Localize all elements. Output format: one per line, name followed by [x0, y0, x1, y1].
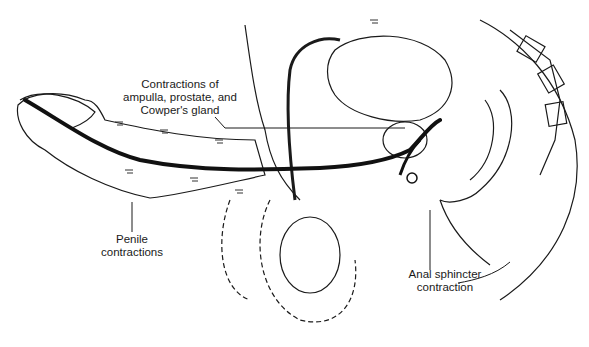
label-line: Cowper's gland [120, 104, 240, 117]
scrotum-outline [260, 200, 356, 322]
testis [280, 217, 340, 293]
label-line: ampulla, prostate, and [120, 91, 240, 104]
label-line: Contractions of [120, 78, 240, 91]
label-ampulla-prostate-cowpers: Contractions of ampulla, prostate, and C… [120, 78, 240, 117]
label-line: contractions [92, 246, 172, 259]
label-line: contraction [395, 281, 495, 294]
label-line: Penile [92, 233, 172, 246]
label-anal-sphincter: Anal sphincter contraction [395, 268, 495, 294]
vas-deferens [288, 39, 340, 200]
anatomical-diagram: Contractions of ampulla, prostate, and C… [0, 0, 589, 347]
diagram-drawing [0, 0, 589, 347]
label-penile-contractions: Penile contractions [92, 233, 172, 259]
label-line: Anal sphincter [395, 268, 495, 281]
rectum [440, 90, 512, 202]
bladder [328, 36, 452, 121]
